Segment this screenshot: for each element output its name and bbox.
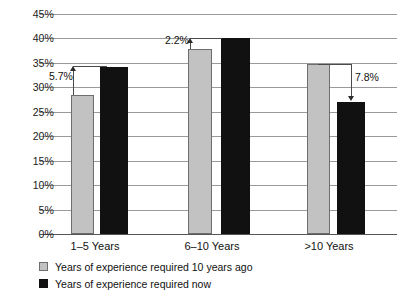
annot-connector-2: [190, 38, 222, 39]
annot-connector-1: [73, 66, 107, 67]
y-tick-label-20: 20%: [0, 130, 54, 142]
x-tick-label-6-10-years: 6–10 Years: [167, 240, 257, 252]
bar-chart: 45% 40% 35% 30% 25% 20% 15% 10% 5% 0% 5.…: [0, 0, 402, 301]
bar-over-10-years-now: [337, 102, 365, 234]
y-tick-label-45: 45%: [0, 8, 54, 20]
annot-arrow-stem-2: [190, 43, 191, 49]
chart-legend: Years of experience required 10 years ag…: [39, 258, 253, 292]
legend-label-10-years-ago: Years of experience required 10 years ag…: [55, 261, 253, 273]
bar-1-5-years-now: [100, 67, 128, 234]
bar-1-5-years-10-years-ago: [71, 95, 94, 234]
annot-arrow-stem-1: [73, 71, 74, 95]
y-tick-label-30: 30%: [0, 81, 54, 93]
x-tick-label-1-5-years: 1–5 Years: [50, 240, 140, 252]
gridline-45: [40, 14, 397, 15]
y-tick-label-0: 0%: [0, 228, 54, 240]
legend-label-now: Years of experience required now: [55, 278, 211, 290]
y-tick-label-40: 40%: [0, 32, 54, 44]
gridline-0: [40, 234, 397, 235]
y-tick-label-15: 15%: [0, 155, 54, 167]
legend-swatch-dark-icon: [39, 279, 48, 288]
y-tick-label-25: 25%: [0, 106, 54, 118]
plot-area: [40, 14, 397, 234]
annotation-label-over-10-years: 7.8%: [355, 71, 379, 83]
annotation-label-1-5-years: 5.7%: [49, 70, 73, 82]
annot-arrow-head-3: [348, 96, 354, 101]
bar-6-10-years-10-years-ago: [188, 49, 212, 234]
legend-swatch-light-icon: [39, 262, 48, 271]
bar-6-10-years-now: [221, 38, 250, 234]
legend-item-10-years-ago: Years of experience required 10 years ag…: [39, 258, 253, 275]
y-tick-label-5: 5%: [0, 204, 54, 216]
y-tick-label-10: 10%: [0, 179, 54, 191]
gridline-30: [40, 87, 397, 88]
annot-connector-3: [318, 64, 352, 65]
y-tick-label-35: 35%: [0, 57, 54, 69]
annot-arrow-stem-3: [351, 64, 352, 96]
annotation-label-6-10-years: 2.2%: [165, 34, 189, 46]
bar-over-10-years-10-years-ago: [307, 64, 330, 234]
x-tick-label-over-10-years: >10 Years: [284, 240, 374, 252]
legend-item-now: Years of experience required now: [39, 275, 253, 292]
